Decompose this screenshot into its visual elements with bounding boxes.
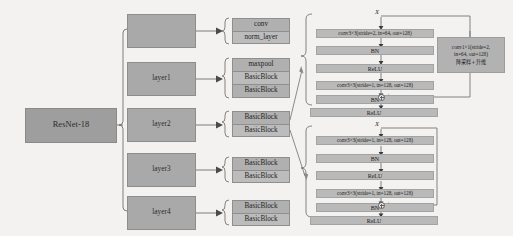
top-bar-conv2: conv3×3(stride=1, in=128, out=128): [316, 81, 434, 90]
stage-arrows: [196, 31, 216, 213]
shortcut-line-1: conv1×1(stride=2,: [452, 44, 490, 51]
top-bar-relu1: ReLU: [316, 64, 434, 73]
stack-row: BasicBlock: [233, 72, 289, 85]
stage-box-layer2: layer2: [127, 108, 196, 142]
stack-stem: conv norm_layer: [232, 18, 290, 44]
top-shortcut-box: conv1×1(stride=2, in=64, out=128) 降采样+升维: [437, 37, 505, 73]
stack-braces: [222, 18, 229, 225]
bottom-bar-relu1: ReLU: [316, 171, 434, 180]
shortcut-line-3: 降采样+升维: [456, 59, 485, 66]
stack-row: norm_layer: [233, 32, 289, 44]
expansion-pointer-heads: [299, 66, 308, 180]
stack-row: BasicBlock: [233, 171, 289, 183]
stack-row: maxpool: [233, 59, 289, 72]
stage-label-layer4: layer4: [152, 209, 171, 217]
expansion-pointers: [290, 70, 305, 176]
bottom-add-symbol: +: [387, 200, 390, 205]
diagram-canvas: ResNet-18 layer1 layer2 layer3 layer4 co…: [0, 0, 513, 236]
stage-label-layer3: layer3: [152, 166, 171, 174]
top-add-node: [378, 94, 385, 101]
root-box: ResNet-18: [25, 108, 117, 143]
stack-layer3: BasicBlock BasicBlock: [232, 157, 290, 183]
stack-layer4: BasicBlock BasicBlock: [232, 200, 290, 226]
detail-bracket-bottom: [301, 126, 312, 217]
stage-box-layer4: layer4: [127, 196, 196, 230]
stage-box-layer1: layer1: [127, 62, 196, 96]
stack-layer2: BasicBlock BasicBlock: [232, 111, 290, 137]
bottom-bar-bn2: BN: [316, 203, 434, 212]
stack-row: BasicBlock: [233, 112, 289, 125]
top-bar-conv1: conv3×3(stride=2, in=64, out=128): [316, 29, 434, 38]
bottom-bar-conv2: conv3×3(stride=1, in=128, out=128): [316, 189, 434, 198]
bottom-bar-relu-out: ReLU: [310, 216, 438, 225]
bottom-input-label: X: [375, 120, 379, 127]
stack-row: BasicBlock: [233, 125, 289, 137]
stage-label-layer2: layer2: [152, 121, 171, 129]
stack-row: BasicBlock: [233, 85, 289, 97]
detail-bracket-top: [301, 14, 312, 105]
stage-arrowheads: [216, 28, 223, 217]
stage-box-stem: [127, 14, 196, 48]
top-add-symbol: +: [387, 92, 390, 97]
stage-box-layer3: layer3: [127, 153, 196, 187]
stage-bracket: [119, 29, 127, 211]
top-input-label: X: [375, 8, 379, 15]
stage-label-layer1: layer1: [152, 75, 171, 83]
top-bar-bn1: BN: [316, 46, 434, 55]
top-bar-relu-out: ReLU: [310, 108, 438, 117]
stack-row: BasicBlock: [233, 214, 289, 226]
top-bar-bn2: BN: [316, 95, 434, 104]
bottom-add-node: [378, 202, 385, 209]
stack-layer1: maxpool BasicBlock BasicBlock: [232, 58, 290, 98]
stack-row: BasicBlock: [233, 201, 289, 214]
root-label: ResNet-18: [53, 121, 90, 130]
bottom-bar-conv1: conv3×3(stride=1, in=128, out=128): [316, 136, 434, 145]
stack-row: conv: [233, 19, 289, 32]
bottom-bar-bn1: BN: [316, 154, 434, 163]
shortcut-line-2: in=64, out=128): [454, 51, 488, 58]
stack-row: BasicBlock: [233, 158, 289, 171]
